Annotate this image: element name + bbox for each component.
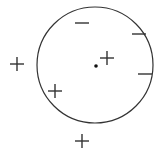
center-point [94, 64, 98, 68]
plus-icon [48, 84, 62, 98]
plus-icon [100, 51, 114, 65]
markers-group [10, 23, 152, 148]
plus-icon [75, 134, 89, 148]
plus-icon [10, 57, 24, 71]
diagram-canvas [0, 0, 162, 160]
